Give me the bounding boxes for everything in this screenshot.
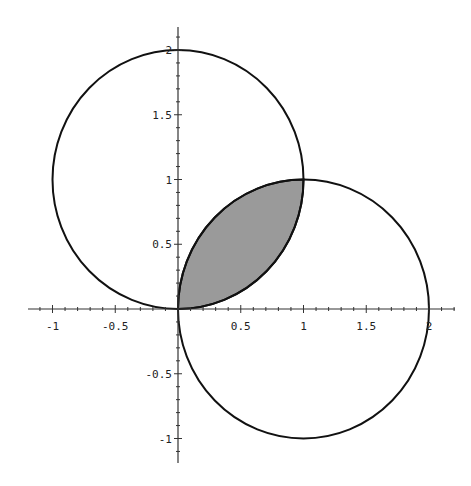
x-tick-labels: -1-0.50.511.52 [46, 320, 432, 333]
y-tick-label: -0.5 [146, 368, 173, 381]
y-tick-label: 1 [165, 174, 172, 187]
x-tick-label: -0.5 [102, 320, 129, 333]
y-tick-label: -1 [159, 433, 172, 446]
x-tick-label: 1.5 [356, 320, 376, 333]
y-tick-label: 1.5 [152, 109, 172, 122]
y-tick-label: 0.5 [152, 238, 172, 251]
y-tick-labels: -1-0.50.511.52 [146, 44, 173, 446]
shaded-intersection-region [178, 180, 304, 310]
x-tick-label: -1 [46, 320, 59, 333]
plot-area: -1-0.50.511.52 -1-0.50.511.52 [0, 0, 471, 486]
x-tick-label: 0.5 [231, 320, 251, 333]
y-tick-label: 2 [165, 44, 172, 57]
x-tick-label: 1 [300, 320, 307, 333]
x-tick-label: 2 [426, 320, 433, 333]
